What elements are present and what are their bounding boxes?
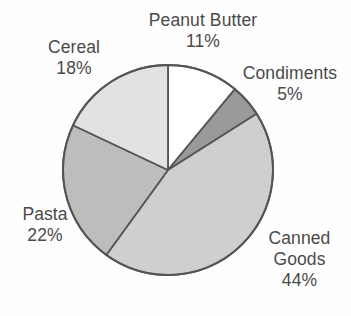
slice-label-cereal-value: 18% — [22, 58, 126, 79]
slice-label-pasta-name: Pasta — [2, 204, 88, 225]
slice-label-cereal-name: Cereal — [22, 37, 126, 58]
pie-chart-figure: Peanut Butter 11% Cereal 18% Condiments … — [0, 0, 351, 316]
slice-label-pasta: Pasta 22% — [2, 204, 88, 246]
slice-label-condiments-name: Condiments — [229, 63, 351, 84]
slice-label-canned-goods-value: 44% — [248, 270, 351, 291]
slice-label-cereal: Cereal 18% — [22, 37, 126, 79]
slice-label-condiments: Condiments 5% — [229, 63, 351, 105]
slice-label-condiments-value: 5% — [229, 84, 351, 105]
slice-label-peanut-butter: Peanut Butter 11% — [128, 10, 278, 52]
slice-label-peanut-butter-value: 11% — [128, 31, 278, 52]
slice-label-canned-goods-name-line2: Goods — [248, 249, 351, 270]
slice-label-peanut-butter-name: Peanut Butter — [128, 10, 278, 31]
slice-label-canned-goods: Canned Goods 44% — [248, 228, 351, 291]
slice-label-canned-goods-name-line1: Canned — [248, 228, 351, 249]
slice-label-pasta-value: 22% — [2, 225, 88, 246]
